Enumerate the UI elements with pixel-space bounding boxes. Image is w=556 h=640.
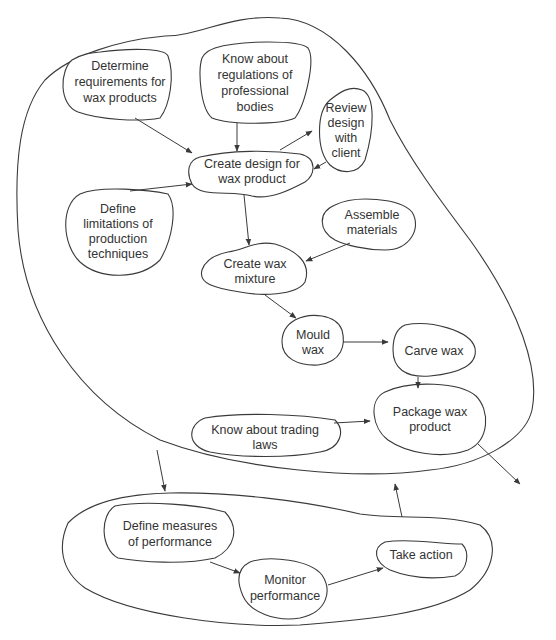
svg-text:Carve wax: Carve wax	[404, 344, 464, 358]
svg-text:Take action: Take action	[389, 548, 452, 562]
edge-materials-to-mixture	[306, 243, 350, 261]
svg-text:Assemblematerials: Assemblematerials	[345, 208, 400, 237]
edge-package-to-outside	[478, 444, 520, 484]
node-define-limitations: Definelimitations ofproductiontechniques	[66, 189, 173, 275]
node-assemble-materials: Assemblematerials	[322, 199, 415, 250]
node-carve-wax: Carve wax	[393, 324, 475, 377]
node-determine-requirements: Determinerequirements forwax products	[63, 49, 171, 120]
node-take-action: Take action	[376, 541, 466, 578]
edge-design-to-review	[280, 131, 312, 150]
node-create-mixture: Create waxmixture	[201, 243, 306, 294]
edge-mixture-to-mould	[265, 295, 296, 318]
edge-design-to-mixture	[244, 195, 249, 245]
node-review-design: Reviewdesignwithclient	[320, 88, 373, 171]
edge-laws-to-package	[334, 421, 370, 423]
node-know-regulations: Know aboutregulations ofprofessionalbodi…	[200, 42, 311, 123]
node-monitor-performance: Monitorperformance	[239, 559, 327, 619]
node-mould-wax: Mouldwax	[282, 315, 343, 365]
node-define-measures: Define measuresof performance	[104, 503, 234, 562]
node-package-product: Package waxproduct	[374, 384, 486, 454]
edge-limitations-to-design	[130, 184, 192, 191]
edge-performance-to-production	[395, 484, 402, 517]
node-trading-laws: Know about tradinglaws	[192, 414, 341, 456]
edge-production-to-performance	[157, 450, 165, 491]
svg-text:Create design forwax product: Create design forwax product	[204, 157, 300, 186]
wax-product-process-diagram: Determinerequirements forwax products Kn…	[0, 0, 556, 640]
edge-monitor-to-action	[328, 568, 383, 585]
node-create-design: Create design forwax product	[189, 151, 313, 197]
edge-requirements-to-design	[135, 118, 192, 153]
edge-measures-to-monitor	[210, 562, 240, 573]
edge-review-to-design	[314, 162, 326, 169]
